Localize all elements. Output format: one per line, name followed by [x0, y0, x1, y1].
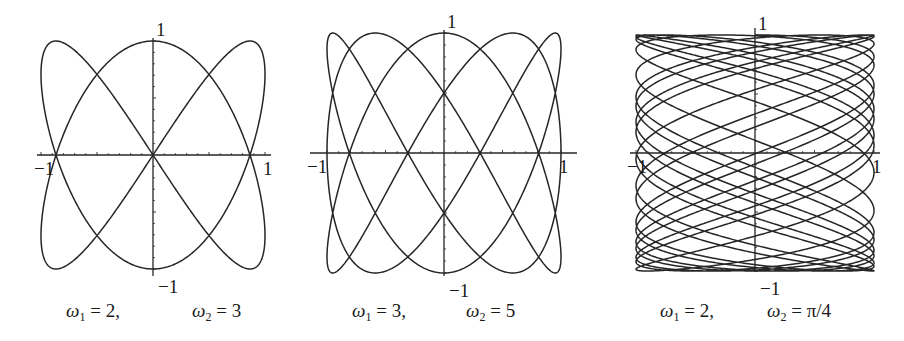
caption-plot2-omega2: ω2 = 5: [466, 300, 515, 325]
caption-plot3-omega2: ω2 = π/4: [767, 300, 831, 325]
omega1-symbol: ω: [66, 300, 79, 321]
plot-w1-3-w2-5: 1−1−11: [307, 11, 577, 301]
lissajous-figure: 1−1−11 1−1−11 1−1−11: [0, 0, 904, 341]
omega2-subscript: 2: [205, 310, 211, 324]
caption-plot1-omega2: ω2 = 3: [192, 300, 241, 325]
omega1-symbol: ω: [660, 300, 673, 321]
y-max-label: 1: [156, 19, 166, 40]
x-min-label: −1: [34, 158, 54, 179]
plot-w1-2-w2-pi-over-4: 1−1−11: [627, 13, 882, 299]
y-max-label: 1: [447, 11, 457, 32]
caption-plot3-omega1: ω1 = 2,: [660, 300, 714, 325]
omega2-value: = π/4: [791, 300, 831, 321]
omega1-value: = 2,: [684, 300, 714, 321]
x-max-label: 1: [872, 156, 882, 177]
x-max-label: 1: [559, 156, 569, 177]
x-max-label: 1: [263, 158, 273, 179]
caption-plot2-omega1: ω1 = 3,: [352, 300, 406, 325]
omega1-subscript: 1: [365, 310, 371, 324]
omega2-value: = 3: [216, 300, 241, 321]
omega2-subscript: 2: [780, 310, 786, 324]
omega1-subscript: 1: [79, 310, 85, 324]
omega1-value: = 2,: [90, 300, 120, 321]
y-max-label: 1: [758, 13, 768, 34]
omega1-subscript: 1: [673, 310, 679, 324]
omega2-symbol: ω: [192, 300, 205, 321]
omega2-symbol: ω: [767, 300, 780, 321]
y-min-label: −1: [158, 276, 178, 297]
caption-plot1-omega1: ω1 = 2,: [66, 300, 120, 325]
omega2-symbol: ω: [466, 300, 479, 321]
omega2-subscript: 2: [479, 310, 485, 324]
y-min-label: −1: [760, 278, 780, 299]
x-min-label: −1: [307, 156, 327, 177]
y-min-label: −1: [449, 280, 469, 301]
omega2-value: = 5: [490, 300, 515, 321]
omega1-symbol: ω: [352, 300, 365, 321]
plot-w1-2-w2-3: 1−1−11: [34, 19, 273, 297]
omega1-value: = 3,: [376, 300, 406, 321]
x-min-label: −1: [627, 156, 647, 177]
